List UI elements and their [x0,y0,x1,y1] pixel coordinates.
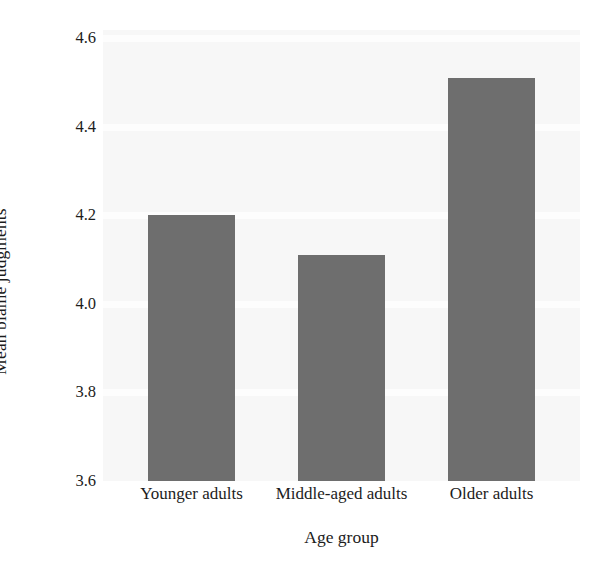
x-axis-tick-labels: Younger adultsMiddle-aged adultsOlder ad… [103,484,580,510]
x-tick-label: Older adults [450,484,534,504]
bar [448,78,535,481]
bar [148,215,235,481]
y-tick-label: 3.8 [48,382,96,402]
x-axis-title: Age group [103,527,580,548]
x-tick-label: Younger adults [140,484,243,504]
y-tick-label: 4.2 [48,205,96,225]
y-tick-label: 4.4 [48,117,96,137]
plot-area [103,30,580,481]
y-tick-label: 4.0 [48,294,96,314]
bar-chart-figure: Mean blame judgments 4.64.44.24.03.83.6 … [0,0,603,583]
y-tick-label: 4.6 [48,28,96,48]
y-tick-label: 3.6 [48,471,96,491]
y-axis-tick-labels: 4.64.44.24.03.83.6 [48,0,96,583]
bar [298,255,385,481]
bar-series [103,30,580,481]
x-tick-label: Middle-aged adults [276,484,408,504]
